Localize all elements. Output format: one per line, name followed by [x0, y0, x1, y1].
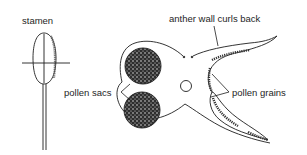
label-stamen: stamen	[22, 16, 53, 26]
stamen-drawing	[22, 33, 70, 150]
label-anther-wall: anther wall curls back	[169, 14, 260, 24]
label-pollen-sacs: pollen sacs	[64, 88, 112, 98]
stamen-diagram: stamen anther wall curls back pollen sac…	[0, 0, 307, 155]
label-pollen-grains: pollen grains	[232, 88, 286, 98]
